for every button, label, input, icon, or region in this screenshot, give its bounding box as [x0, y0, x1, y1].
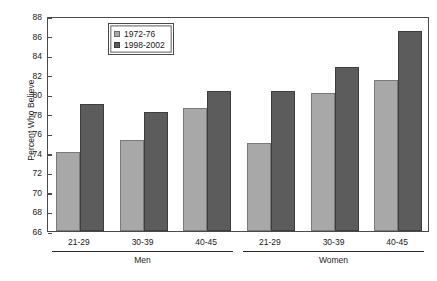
- x-axis-category-label: 21-29: [49, 237, 109, 247]
- bar-chart-figure: Percent Who Believe 66687072747678808284…: [0, 0, 437, 281]
- bar: [335, 67, 359, 231]
- bar: [120, 140, 144, 231]
- y-axis-tick-label: 66: [33, 227, 42, 237]
- bar: [144, 112, 168, 231]
- bar: [311, 93, 335, 231]
- x-axis-category-label: 40-45: [176, 237, 236, 247]
- x-axis-category-label: 40-45: [367, 237, 427, 247]
- bar: [374, 80, 398, 231]
- legend-label: 1998-2002: [124, 40, 165, 50]
- y-axis-tick-label: 88: [33, 12, 42, 22]
- x-axis-group-rule: [243, 251, 424, 252]
- x-axis-category-label: 21-29: [240, 237, 300, 247]
- y-axis-tick-mark: [48, 233, 52, 234]
- bar: [80, 104, 104, 231]
- legend-entry: 1998-2002: [114, 39, 165, 50]
- bar: [398, 31, 422, 231]
- x-axis-category-label: 30-39: [304, 237, 364, 247]
- x-axis-group-label: Women: [294, 255, 374, 265]
- legend-label: 1972-76: [124, 29, 155, 39]
- y-axis-tick-label: 72: [33, 168, 42, 178]
- chart-legend: 1972-76 1998-2002: [108, 23, 174, 55]
- y-axis-tick-label: 76: [33, 129, 42, 139]
- figure-caption: [0, 276, 437, 281]
- x-axis-group-rule: [52, 251, 233, 252]
- x-axis-category-label: 30-39: [113, 237, 173, 247]
- y-axis-tick-label: 82: [33, 71, 42, 81]
- y-axis-tick-label: 86: [33, 32, 42, 42]
- y-axis-tick-label: 84: [33, 51, 42, 61]
- bar: [207, 91, 231, 231]
- y-axis-tick-label: 70: [33, 188, 42, 198]
- bar-series-container: [48, 18, 428, 231]
- bar: [56, 152, 80, 231]
- legend-swatch-icon: [114, 31, 120, 37]
- legend-entry: 1972-76: [114, 28, 165, 39]
- bar: [247, 143, 271, 231]
- y-axis-tick-label: 74: [33, 149, 42, 159]
- bar: [271, 91, 295, 231]
- legend-swatch-icon: [114, 42, 120, 48]
- plot-area: 666870727476788082848688: [47, 17, 429, 232]
- y-axis-tick-label: 78: [33, 110, 42, 120]
- y-axis-tick-label: 80: [33, 90, 42, 100]
- bar: [183, 108, 207, 231]
- y-axis-tick-label: 68: [33, 207, 42, 217]
- x-axis-group-label: Men: [103, 255, 183, 265]
